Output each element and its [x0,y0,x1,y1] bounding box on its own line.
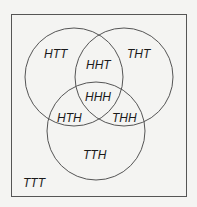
label-hht: HHT [86,58,112,72]
label-hth: HTH [57,111,82,125]
venn-diagram: HTT THT HHT HHH HTH THH TTH TTT [0,0,197,207]
label-htt: HTT [44,47,69,61]
label-tth: TTH [83,148,107,162]
label-ttt: TTT [23,176,47,190]
label-hhh: HHH [85,90,111,104]
label-thh: THH [112,111,137,125]
sample-space-box [12,15,187,197]
label-tht: THT [127,47,152,61]
